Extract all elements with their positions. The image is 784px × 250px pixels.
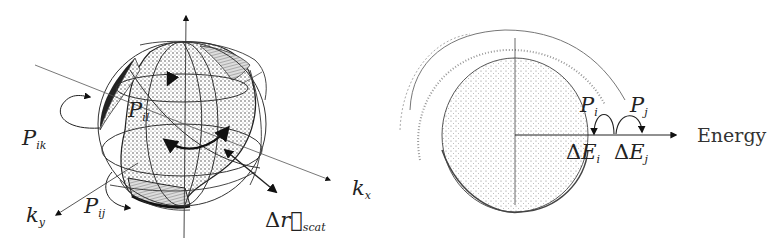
label-delta-ej: ΔEj [614,142,648,165]
diagram-canvas [0,0,784,250]
label-pil: Pil [128,100,149,123]
energy-shells [400,30,676,212]
label-kx: kx [352,178,371,201]
label-pik: Pik [22,128,46,151]
label-ky: ky [26,205,45,228]
k-space-sphere [98,41,266,210]
label-dr-scat: Δr⃗scat [265,210,326,233]
label-pi: Pi [580,95,598,118]
energy-axis-label: Energy [697,126,766,145]
pik-loop-arrow [60,95,100,128]
label-delta-ei: ΔEi [566,142,600,165]
label-pij: Pij [84,196,105,219]
pj-hop-arrow [616,116,642,134]
label-pj: Pj [630,95,648,118]
